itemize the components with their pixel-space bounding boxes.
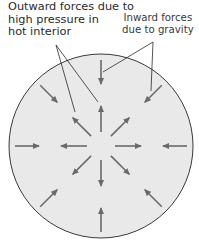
star-forces-diagram: [0, 0, 199, 243]
